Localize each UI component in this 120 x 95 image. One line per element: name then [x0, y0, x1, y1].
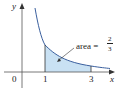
tick-3: 3 [89, 75, 94, 84]
annotation-label: area = [76, 42, 98, 51]
tick-0: 0 [12, 75, 17, 84]
annotation-pointer [59, 48, 74, 60]
fraction-bar [107, 43, 113, 44]
y-axis-arrow-icon [20, 3, 25, 9]
plot-area [0, 0, 120, 95]
y-axis-label: y [12, 2, 16, 11]
x-axis-label: x [110, 75, 114, 84]
figure: y x 0 1 3 area = 2 3 [0, 0, 120, 95]
tick-1: 1 [43, 75, 48, 84]
annotation-denominator: 3 [108, 45, 112, 54]
